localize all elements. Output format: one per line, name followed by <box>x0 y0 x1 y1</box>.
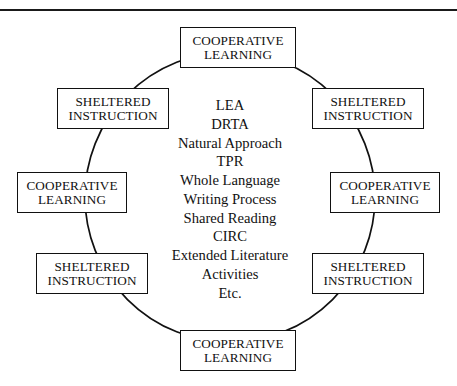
node-sheltered-instruction-top-left[interactable]: SHELTERED INSTRUCTION <box>57 88 169 129</box>
node-label-line1: COOPERATIVE <box>26 179 117 193</box>
node-sheltered-instruction-bottom-right[interactable]: SHELTERED INSTRUCTION <box>312 253 424 294</box>
node-label-line2: INSTRUCTION <box>323 109 412 123</box>
center-list-item: Activities <box>128 265 332 284</box>
node-label-line1: SHELTERED <box>330 95 405 109</box>
node-label-line1: SHELTERED <box>75 95 150 109</box>
node-label-line2: LEARNING <box>204 351 272 365</box>
center-list-item: Natural Approach <box>128 134 332 153</box>
node-label-line2: INSTRUCTION <box>47 274 136 288</box>
node-label-line1: SHELTERED <box>330 260 405 274</box>
node-cooperative-learning-top[interactable]: COOPERATIVE LEARNING <box>180 27 296 68</box>
center-list-item: Extended Literature <box>128 246 332 265</box>
center-list-item: TPR <box>128 152 332 171</box>
center-list-item: Etc. <box>128 284 332 303</box>
diagram-page: COOPERATIVE LEARNING SHELTERED INSTRUCTI… <box>0 0 457 386</box>
node-label-line2: LEARNING <box>204 48 272 62</box>
node-label-line1: SHELTERED <box>54 260 129 274</box>
center-list-item: Whole Language <box>128 171 332 190</box>
node-label-line1: COOPERATIVE <box>192 337 283 351</box>
node-cooperative-learning-left[interactable]: COOPERATIVE LEARNING <box>17 172 127 213</box>
node-label-line1: COOPERATIVE <box>192 34 283 48</box>
center-list-item: Shared Reading <box>128 209 332 228</box>
node-sheltered-instruction-bottom-left[interactable]: SHELTERED INSTRUCTION <box>36 253 148 294</box>
node-label-line2: LEARNING <box>351 193 419 207</box>
node-label-line2: LEARNING <box>38 193 106 207</box>
center-list-item: CIRC <box>128 227 332 246</box>
node-label-line2: INSTRUCTION <box>68 109 157 123</box>
node-cooperative-learning-bottom[interactable]: COOPERATIVE LEARNING <box>180 330 296 371</box>
node-label-line2: INSTRUCTION <box>323 274 412 288</box>
node-cooperative-learning-right[interactable]: COOPERATIVE LEARNING <box>330 172 440 213</box>
node-sheltered-instruction-top-right[interactable]: SHELTERED INSTRUCTION <box>312 88 424 129</box>
center-list-item: Writing Process <box>128 190 332 209</box>
node-label-line1: COOPERATIVE <box>339 179 430 193</box>
